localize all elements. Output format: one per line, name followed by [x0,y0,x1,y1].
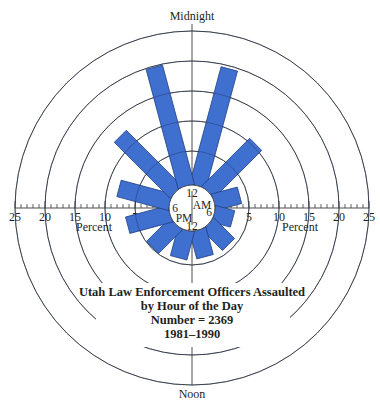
polar-bar-chart: 510152025510152025 121266AMPM Midnight N… [0,0,380,403]
chart-title-line1: Utah Law Enforcement Officers Assaulted [79,285,305,299]
hub-label-am: AM [193,199,212,211]
chart-title-line2: by Hour of the Day [141,299,244,313]
hub-label-pm: PM [176,212,193,224]
hub-label-12-top: 12 [186,187,198,199]
percent-label-right: Percent [282,220,319,234]
noon-label: Noon [179,387,206,401]
chart-years: 1981–1990 [164,327,220,341]
hub: 121266AMPM [169,185,215,232]
chart-number: Number = 2369 [151,313,234,327]
midnight-label: Midnight [170,9,215,23]
percent-label-left: Percent [76,220,113,234]
